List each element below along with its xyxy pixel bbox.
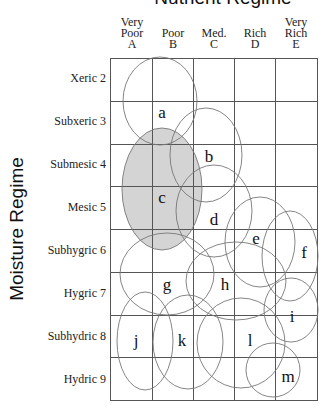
site-unit-k-label: k (178, 331, 187, 350)
site-unit-a-label: a (158, 103, 166, 122)
site-unit-b-label: b (205, 147, 214, 166)
site-unit-g-label: g (163, 275, 172, 294)
site-unit-l-label: l (248, 331, 253, 350)
site-unit-c-label: c (158, 188, 166, 207)
site-unit-h-ellipse (186, 242, 286, 320)
edatopic-grid: abcdefghijklm (0, 0, 326, 416)
site-unit-i-label: i (290, 307, 295, 326)
site-unit-f-label: f (301, 243, 307, 262)
site-unit-j-label: j (133, 331, 139, 350)
site-unit-e-label: e (252, 229, 260, 248)
site-unit-h-label: h (221, 275, 230, 294)
site-unit-d-label: d (210, 210, 219, 229)
site-unit-m-label: m (281, 367, 294, 386)
site-unit-f-ellipse (262, 211, 318, 301)
